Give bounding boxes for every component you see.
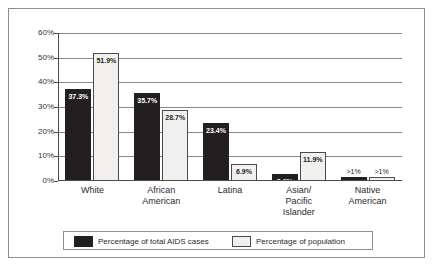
x-tick-label-line: Asian/ — [264, 185, 333, 196]
y-tick-mark — [54, 181, 58, 182]
x-tick-label-line: Latina — [196, 185, 265, 196]
legend-item: Percentage of population — [232, 235, 345, 247]
x-tick-label: AfricanAmerican — [127, 185, 196, 207]
y-axis: 0%10%20%30%40%50%60% — [18, 33, 54, 181]
plot-area: 37.3%51.9%35.7%28.7%23.4%6.9%2.9%11.9%>1… — [58, 33, 402, 181]
x-tick-label: Asian/PacificIslander — [264, 185, 333, 218]
legend-label: Percentage of population — [256, 237, 345, 246]
x-tick-label-line: American — [127, 196, 196, 207]
chart-legend: Percentage of total AIDS casesPercentage… — [63, 231, 373, 250]
plot-axes — [58, 33, 402, 181]
x-tick-label: Latina — [196, 185, 265, 196]
y-tick-label: 20% — [38, 128, 54, 136]
x-tick-label-line: Islander — [264, 207, 333, 218]
x-tick-label-line: American — [333, 196, 402, 207]
y-tick-label: 30% — [38, 103, 54, 111]
y-tick-label: 60% — [38, 29, 54, 37]
y-tick-label: 10% — [38, 152, 54, 160]
chart-figure: 0%10%20%30%40%50%60% 37.3%51.9%35.7%28.7… — [0, 0, 435, 271]
legend-swatch — [232, 236, 251, 247]
y-tick-label: 0% — [42, 177, 54, 185]
legend-swatch — [74, 236, 93, 247]
y-tick-label: 50% — [38, 54, 54, 62]
x-tick-label-line: Pacific — [264, 196, 333, 207]
x-tick-label-line: African — [127, 185, 196, 196]
x-tick-label: White — [58, 185, 127, 196]
x-tick-label-line: White — [58, 185, 127, 196]
x-tick-label-line: Native — [333, 185, 402, 196]
legend-item: Percentage of total AIDS cases — [74, 235, 209, 247]
x-tick-label: NativeAmerican — [333, 185, 402, 207]
y-tick-label: 40% — [38, 78, 54, 86]
x-axis: WhiteAfricanAmericanLatinaAsian/PacificI… — [58, 185, 402, 227]
legend-label: Percentage of total AIDS cases — [98, 237, 209, 246]
